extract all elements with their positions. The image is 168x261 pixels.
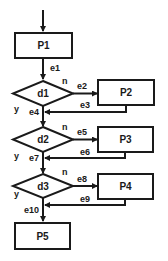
node-p3[interactable]: P3 [98,127,153,152]
node-p4-label: P4 [119,181,132,192]
d1-yes-label: y [14,104,19,114]
node-p2[interactable]: P2 [98,80,154,105]
edge-e9-label: e9 [80,194,90,204]
d3-no-label: n [62,167,68,177]
node-p5[interactable]: P5 [15,223,70,249]
edge-e8-label: e8 [77,174,87,184]
node-d3[interactable]: d3 [13,174,73,198]
edge-e6-label: e6 [80,147,90,157]
node-p2-label: P2 [120,87,133,98]
node-p5-label: P5 [36,231,49,242]
d3-yes-label: y [14,189,19,199]
edge-e2-label: e2 [77,81,87,91]
edge-e7-label: e7 [29,153,39,163]
node-p3-label: P3 [119,134,132,145]
edge-e3-label: e3 [80,100,90,110]
flowchart: P1 e1 d1 n y e2 P2 e3 e4 d2 n y e5 P3 e6… [0,0,168,261]
node-p4[interactable]: P4 [98,174,153,199]
d2-no-label: n [62,122,68,132]
d2-yes-label: y [14,151,19,161]
node-d3-label: d3 [37,181,49,192]
edge-e4-label: e4 [29,107,39,117]
d1-no-label: n [62,76,68,86]
edge-e5-label: e5 [77,127,87,137]
edge-e1-label: e1 [50,63,60,73]
node-p1-label: P1 [37,40,50,51]
node-p1[interactable]: P1 [15,33,72,58]
node-d1-label: d1 [37,88,49,99]
node-d2-label: d2 [37,134,49,145]
edge-e10-label: e10 [24,205,39,215]
